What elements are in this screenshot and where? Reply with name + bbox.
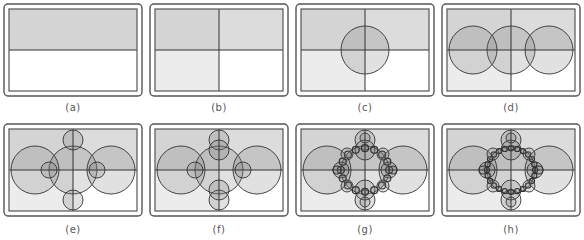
diagram-group xyxy=(296,124,434,216)
diagram-group xyxy=(150,124,288,216)
diagram-group xyxy=(296,4,434,96)
diagram-e xyxy=(0,120,146,220)
diagram-g xyxy=(292,120,438,220)
caption-g: (g) xyxy=(292,224,438,235)
diagram-group xyxy=(442,124,580,216)
caption-f: (f) xyxy=(146,224,292,235)
panel-a: (a) xyxy=(0,0,146,118)
diagram-f xyxy=(146,120,292,220)
caption-b: (b) xyxy=(146,102,292,113)
panel-b: (b) xyxy=(146,0,292,118)
caption-c: (c) xyxy=(292,102,438,113)
diagram-d xyxy=(438,0,584,100)
diagram-b xyxy=(146,0,292,100)
caption-h: (h) xyxy=(438,224,584,235)
panel-f: (f) xyxy=(146,120,292,240)
panel-h: (h) xyxy=(438,120,584,240)
diagram-a xyxy=(0,0,146,100)
diagram-c xyxy=(292,0,438,100)
diagram-group xyxy=(4,124,142,216)
diagram-group xyxy=(4,4,142,96)
caption-e: (e) xyxy=(0,224,146,235)
diagram-h xyxy=(438,120,584,220)
caption-a: (a) xyxy=(0,102,146,113)
diagram-group xyxy=(442,4,580,96)
caption-d: (d) xyxy=(438,102,584,113)
panel-d: (d) xyxy=(438,0,584,118)
panel-c: (c) xyxy=(292,0,438,118)
panel-g: (g) xyxy=(292,120,438,240)
panel-e: (e) xyxy=(0,120,146,240)
diagram-group xyxy=(150,4,288,96)
